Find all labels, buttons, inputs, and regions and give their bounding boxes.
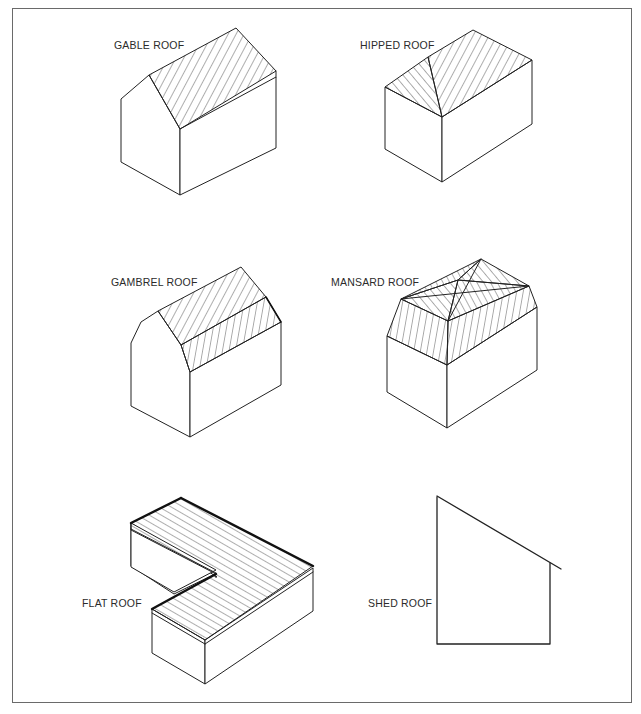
gable-roof-label: GABLE ROOF: [114, 39, 184, 51]
gambrel-roof-label: GAMBREL ROOF: [111, 276, 198, 288]
shed-roof-drawing: [437, 496, 561, 644]
gambrel-roof-drawing: [131, 267, 281, 437]
gable-roof-drawing: [121, 28, 276, 195]
shed-roof-label: SHED ROOF: [368, 597, 432, 609]
flat-roof-label: FLAT ROOF: [82, 597, 142, 609]
flat-roof-drawing: [131, 498, 313, 684]
hipped-roof-drawing: [385, 30, 532, 182]
mansard-roof-label: MANSARD ROOF: [331, 276, 419, 288]
hipped-roof-label: HIPPED ROOF: [360, 39, 435, 51]
